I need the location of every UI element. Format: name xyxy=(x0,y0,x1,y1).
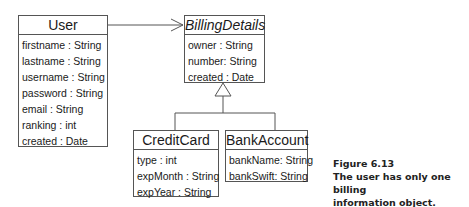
caption-line: information object. xyxy=(333,196,469,207)
attribute: type : int xyxy=(137,152,218,168)
class-name: User xyxy=(19,16,107,35)
attribute: firstname : String xyxy=(22,37,107,53)
attribute: created : Date xyxy=(22,133,107,149)
attribute: email : String xyxy=(22,101,107,117)
attribute: number: String xyxy=(188,53,264,69)
class-user: User firstname : String lastname : Strin… xyxy=(18,15,108,147)
attribute: lastname : String xyxy=(22,53,107,69)
attribute-list: bankName: String bankSwift: String xyxy=(226,150,307,185)
figure-caption: Figure 6.13 The user has only one billin… xyxy=(333,157,469,207)
attribute: owner : String xyxy=(188,37,264,53)
attribute: password : String xyxy=(22,85,107,101)
attribute: bankName: String xyxy=(229,152,307,168)
class-bank-account: BankAccount bankName: String bankSwift: … xyxy=(225,130,308,182)
class-name: CreditCard xyxy=(134,131,218,150)
attribute: username : String xyxy=(22,69,107,85)
figure-number: Figure 6.13 xyxy=(333,157,469,170)
attribute: expMonth : String xyxy=(137,168,218,184)
attribute-list: owner : String number: String created : … xyxy=(185,35,264,86)
caption-line: The user has only one billing xyxy=(333,170,469,196)
attribute-list: firstname : String lastname : String use… xyxy=(19,35,107,150)
attribute: ranking : int xyxy=(22,117,107,133)
class-name: BankAccount xyxy=(226,131,307,150)
attribute: bankSwift: String xyxy=(229,168,307,184)
attribute: created : Date xyxy=(188,69,264,85)
attribute-list: type : int expMonth : String expYear : S… xyxy=(134,150,218,201)
class-credit-card: CreditCard type : int expMonth : String … xyxy=(133,130,219,197)
attribute: expYear : String xyxy=(137,184,218,200)
class-name: BillingDetails xyxy=(185,16,264,35)
class-billing-details: BillingDetails owner : String number: St… xyxy=(184,15,265,83)
